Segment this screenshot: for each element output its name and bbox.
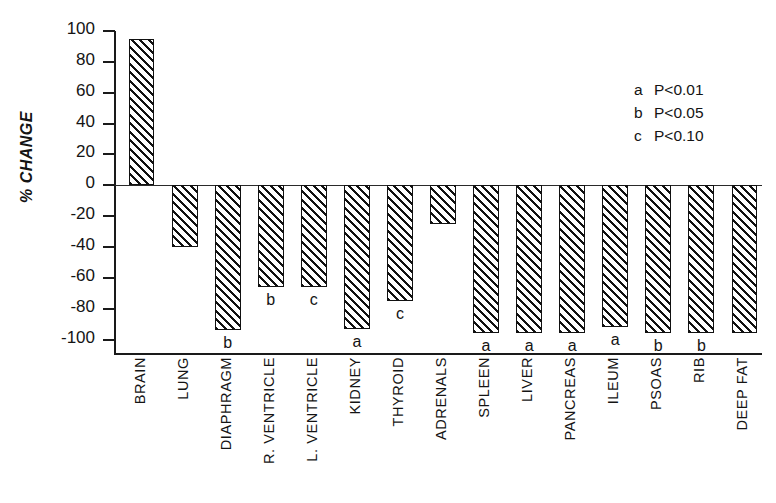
y-tick-neg20: -20 (103, 215, 115, 217)
bar-slot: c (301, 31, 327, 355)
bar (129, 39, 155, 186)
significance-marker: c (396, 306, 404, 322)
bar-slot: a (559, 31, 585, 355)
bar-slot: a (602, 31, 628, 355)
bar (732, 185, 758, 333)
y-tick-60: 60 (103, 92, 115, 94)
bar (215, 185, 241, 330)
y-tick-40: 40 (103, 123, 115, 125)
significance-marker: a (525, 338, 534, 354)
bar (258, 185, 284, 287)
significance-marker: a (352, 334, 361, 350)
bar-slot: a (344, 31, 370, 355)
y-tick-neg100: -100 (103, 339, 115, 341)
legend-row: cP<0.10 (634, 124, 704, 147)
y-tick-label: 60 (35, 81, 95, 101)
significance-legend: aP<0.01bP<0.05cP<0.10 (634, 78, 704, 147)
category-label-diaphragm: DIAPHRAGM (218, 357, 234, 450)
significance-marker: b (223, 335, 232, 351)
bar-chart: % CHANGE 100806040200-20-40-60-80-100 bb… (0, 0, 776, 503)
bar (172, 185, 198, 247)
bar-slot (732, 31, 758, 355)
y-tick-neg40: -40 (103, 246, 115, 248)
significance-marker: a (482, 338, 491, 354)
category-label-thyroid: THYROID (390, 357, 406, 426)
legend-text: P<0.10 (654, 127, 704, 144)
bar-slot: b (215, 31, 241, 355)
significance-marker: a (611, 332, 620, 348)
category-label-pancreas: PANCREAS (562, 357, 578, 441)
legend-key: c (634, 124, 654, 147)
bar-slot (172, 31, 198, 355)
category-label-psoas: PSOAS (648, 357, 664, 410)
y-tick-100: 100 (103, 30, 115, 32)
bar (688, 185, 714, 333)
category-label-brain: BRAIN (132, 357, 148, 404)
bar (516, 185, 542, 333)
y-tick-label: -100 (35, 328, 95, 348)
significance-marker: b (654, 338, 663, 354)
y-tick-label: -60 (35, 266, 95, 286)
bar (344, 185, 370, 328)
legend-text: P<0.05 (654, 104, 704, 121)
y-tick-label: 100 (35, 19, 95, 39)
y-tick-label: 40 (35, 112, 95, 132)
category-label-l-ventricle: L. VENTRICLE (304, 357, 320, 462)
y-tick-label: -20 (35, 204, 95, 224)
x-axis-category-labels: BRAINLUNGDIAPHRAGMR. VENTRICLEL. VENTRIC… (116, 357, 762, 503)
significance-marker: b (697, 338, 706, 354)
bar (301, 185, 327, 287)
y-tick-label: 80 (35, 50, 95, 70)
category-label-lung: LUNG (175, 357, 191, 400)
category-label-spleen: SPLEEN (476, 357, 492, 418)
bar-slot: a (473, 31, 499, 355)
significance-marker: b (266, 292, 275, 308)
y-tick-0: 0 (103, 184, 115, 186)
legend-key: a (634, 78, 654, 101)
category-label-ileum: ILEUM (605, 357, 621, 404)
y-tick-label: 20 (35, 142, 95, 162)
category-label-rib: RIB (691, 357, 707, 383)
legend-row: bP<0.05 (634, 101, 704, 124)
legend-text: P<0.01 (654, 81, 704, 98)
significance-marker: a (568, 338, 577, 354)
bar (602, 185, 628, 327)
category-label-r-ventricle: R. VENTRICLE (261, 357, 277, 464)
y-tick-80: 80 (103, 61, 115, 63)
bar (645, 185, 671, 333)
y-axis-label: % CHANGE (18, 92, 36, 222)
y-tick-20: 20 (103, 153, 115, 155)
bar (559, 185, 585, 333)
y-tick-label: -40 (35, 235, 95, 255)
legend-key: b (634, 101, 654, 124)
category-label-deep-fat: DEEP FAT (734, 357, 750, 431)
y-tick-neg60: -60 (103, 277, 115, 279)
category-label-kidney: KIDNEY (347, 357, 363, 415)
bar-slot (430, 31, 456, 355)
bar-slot: c (387, 31, 413, 355)
bar (430, 185, 456, 224)
bar (387, 185, 413, 301)
bar-slot (129, 31, 155, 355)
y-tick-label: 0 (35, 173, 95, 193)
category-label-liver: LIVER (519, 357, 535, 402)
y-tick-neg80: -80 (103, 308, 115, 310)
bar-slot: b (258, 31, 284, 355)
bar (473, 185, 499, 333)
y-tick-label: -80 (35, 297, 95, 317)
category-label-adrenals: ADRENALS (433, 357, 449, 440)
legend-row: aP<0.01 (634, 78, 704, 101)
bar-slot: a (516, 31, 542, 355)
significance-marker: c (310, 292, 318, 308)
